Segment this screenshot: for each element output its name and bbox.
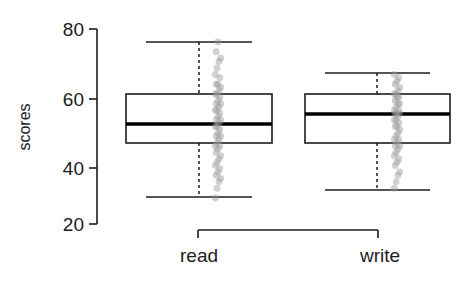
data-point xyxy=(393,178,400,185)
box-write xyxy=(305,73,450,190)
y-tick-label-40: 40 xyxy=(63,158,84,179)
y-tick-label-60: 60 xyxy=(63,89,84,110)
y-axis: 80 60 40 20 scores xyxy=(16,19,97,235)
data-point xyxy=(215,81,222,88)
data-point xyxy=(391,185,398,192)
read-box-rect xyxy=(126,94,272,143)
x-axis: read write xyxy=(180,230,400,266)
data-point xyxy=(212,71,219,78)
x-tick-label-read: read xyxy=(180,245,218,266)
data-point xyxy=(214,185,221,192)
boxplot-canvas: 80 60 40 20 scores xyxy=(0,0,468,290)
y-axis-title: scores xyxy=(16,103,33,150)
box-read xyxy=(126,42,272,197)
read-data-points xyxy=(212,39,224,202)
y-tick-label-80: 80 xyxy=(63,19,84,40)
data-point xyxy=(214,65,221,72)
data-point xyxy=(213,48,220,55)
data-point xyxy=(212,195,219,202)
data-point xyxy=(217,55,224,62)
data-point xyxy=(396,169,403,176)
data-point xyxy=(391,71,398,78)
write-data-points xyxy=(391,71,403,192)
write-box-rect xyxy=(305,94,450,143)
data-point xyxy=(215,39,222,46)
boxplot-figure: 80 60 40 20 scores xyxy=(0,0,468,290)
x-tick-label-write: write xyxy=(359,245,400,266)
y-tick-label-20: 20 xyxy=(63,214,84,235)
